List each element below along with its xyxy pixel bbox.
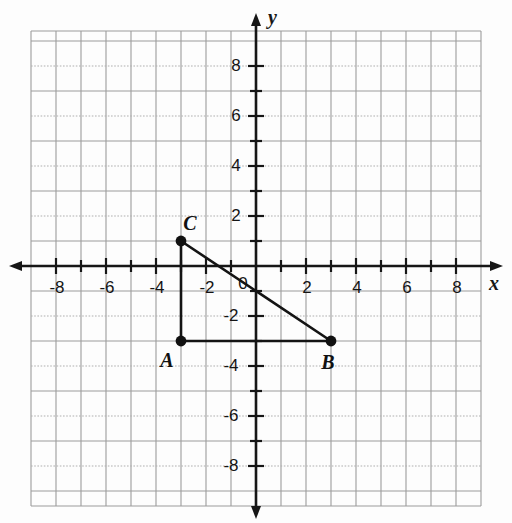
- point-A: [176, 336, 187, 347]
- x-axis-label: x: [489, 272, 499, 295]
- x-tick-label-8: 8: [452, 278, 461, 298]
- y-tick-label--4: -4: [223, 356, 238, 376]
- y-axis-arrow-down: [251, 506, 261, 519]
- x-tick-label-2: 2: [302, 278, 311, 298]
- point-label-B: B: [321, 351, 334, 374]
- y-axis-arrow-up: [251, 13, 261, 26]
- x-tick-label--8: -8: [49, 278, 64, 298]
- x-tick-label--2: -2: [199, 278, 214, 298]
- coordinate-plane-figure: y x -8 -6 -4 -2 0 2 4 6 8 8 6 4 2 -2 -4 …: [0, 0, 512, 523]
- y-tick-label-4: 4: [231, 156, 240, 176]
- point-C: [176, 236, 187, 247]
- x-tick-label-6: 6: [402, 278, 411, 298]
- coordinate-plane-svg: [0, 0, 512, 523]
- y-tick-label-2: 2: [231, 206, 240, 226]
- y-tick-label--8: -8: [223, 456, 238, 476]
- point-label-A: A: [160, 349, 173, 372]
- y-axis-label: y: [268, 6, 277, 29]
- x-tick-label--6: -6: [99, 278, 114, 298]
- x-axis-arrow-right: [490, 261, 503, 271]
- origin-label: 0: [238, 274, 247, 294]
- x-tick-label--4: -4: [149, 278, 164, 298]
- y-tick-label-8: 8: [231, 56, 240, 76]
- x-tick-label-4: 4: [352, 278, 361, 298]
- point-label-C: C: [183, 212, 196, 235]
- point-B: [326, 336, 337, 347]
- y-tick-label-6: 6: [231, 106, 240, 126]
- x-axis-arrow-left: [9, 261, 22, 271]
- y-tick-label--2: -2: [223, 306, 238, 326]
- y-tick-label--6: -6: [223, 406, 238, 426]
